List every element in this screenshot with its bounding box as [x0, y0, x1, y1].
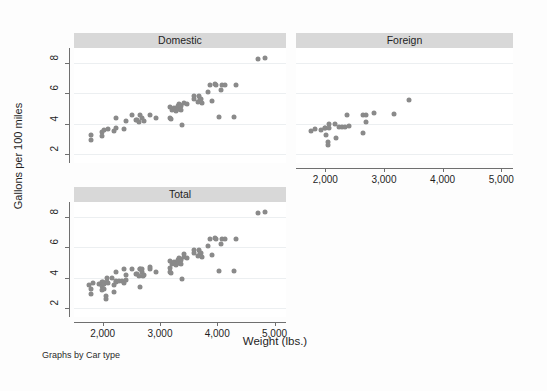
data-point — [213, 237, 218, 242]
data-point — [326, 142, 331, 147]
x-axis-tick-label: 2,000 — [313, 174, 338, 185]
gridline — [296, 63, 513, 64]
data-point — [327, 125, 332, 130]
data-point — [205, 89, 210, 94]
y-axis-tick-label: 8 — [49, 209, 60, 225]
data-point — [169, 270, 174, 275]
y-axis-title: Gallons per 100 miles — [12, 76, 24, 236]
data-point — [101, 287, 106, 292]
data-point — [361, 130, 366, 135]
data-point — [140, 267, 145, 272]
data-point — [231, 114, 236, 119]
data-point — [213, 83, 218, 88]
x-axis-title: Weight (lbs.) — [130, 335, 420, 347]
data-point — [142, 273, 147, 278]
y-axis-tick-label: 6 — [49, 85, 60, 101]
figure-note: Graphs by Car type — [42, 350, 120, 360]
data-point — [123, 278, 128, 283]
data-point — [179, 108, 184, 113]
data-point — [148, 113, 153, 118]
data-point — [113, 125, 118, 130]
data-point — [263, 209, 268, 214]
plot-area-foreign — [296, 48, 513, 163]
y-axis-tick — [65, 63, 69, 64]
y-axis-line — [69, 48, 70, 163]
x-axis-tick — [501, 168, 502, 172]
y-axis-tick-label: 6 — [49, 239, 60, 255]
plot-area-domestic — [74, 48, 286, 163]
data-point — [179, 262, 184, 267]
data-point — [391, 111, 396, 116]
data-point — [200, 255, 205, 260]
data-point — [89, 137, 94, 142]
data-point — [218, 241, 223, 246]
data-point — [90, 281, 95, 286]
x-axis-tick — [384, 168, 385, 172]
data-point — [218, 87, 223, 92]
data-point — [124, 272, 129, 277]
x-axis-tick — [103, 322, 104, 326]
gridline — [296, 154, 513, 155]
data-point — [184, 101, 189, 106]
data-point — [200, 101, 205, 106]
y-axis-tick-label: 2 — [49, 146, 60, 162]
data-point — [256, 56, 261, 61]
data-point — [184, 255, 189, 260]
data-point — [169, 116, 174, 121]
x-axis-tick — [160, 322, 161, 326]
x-axis-tick-label: 5,000 — [489, 174, 514, 185]
data-point — [106, 126, 111, 131]
x-axis-tick-label: 2,000 — [90, 328, 115, 339]
data-point — [137, 284, 142, 289]
y-axis-tick — [65, 93, 69, 94]
data-point — [216, 268, 221, 273]
panel-title-domestic: Domestic — [74, 33, 286, 48]
gridline — [74, 308, 286, 309]
data-point — [234, 83, 239, 88]
x-axis-line — [74, 322, 286, 323]
panel-foreign: Foreign — [296, 33, 513, 163]
y-axis-tick — [65, 154, 69, 155]
data-point — [234, 237, 239, 242]
gridline — [74, 63, 286, 64]
x-axis-line — [296, 168, 513, 169]
data-point — [345, 113, 350, 118]
y-axis-line — [69, 202, 70, 317]
data-point — [153, 269, 158, 274]
y-axis-tick — [65, 247, 69, 248]
panel-domestic: Domestic — [74, 33, 286, 163]
y-axis-tick — [65, 124, 69, 125]
panel-title-foreign: Foreign — [296, 33, 513, 48]
data-point — [231, 268, 236, 273]
data-point — [121, 267, 126, 272]
gridline — [74, 217, 286, 218]
panel-title-total: Total — [74, 187, 286, 202]
data-point — [103, 296, 108, 301]
x-axis-tick — [325, 168, 326, 172]
data-point — [313, 127, 318, 132]
y-axis-tick — [65, 278, 69, 279]
data-point — [106, 280, 111, 285]
data-point — [124, 118, 129, 123]
data-point — [209, 252, 214, 257]
plot-area-total — [74, 202, 286, 317]
data-point — [263, 55, 268, 60]
data-point — [179, 122, 184, 127]
y-axis-tick-label: 8 — [49, 55, 60, 71]
x-axis-tick — [275, 322, 276, 326]
data-point — [222, 83, 227, 88]
data-point — [153, 115, 158, 120]
data-point — [121, 126, 126, 131]
data-point — [179, 276, 184, 281]
y-axis-tick — [65, 217, 69, 218]
panel-total: Total — [74, 187, 286, 317]
data-point — [324, 133, 329, 138]
data-point — [406, 98, 411, 103]
gridline — [296, 93, 513, 94]
data-point — [372, 111, 377, 116]
x-axis-tick — [443, 168, 444, 172]
data-point — [256, 210, 261, 215]
data-point — [364, 120, 369, 125]
y-axis-tick-label: 4 — [49, 270, 60, 286]
data-point — [334, 136, 339, 141]
